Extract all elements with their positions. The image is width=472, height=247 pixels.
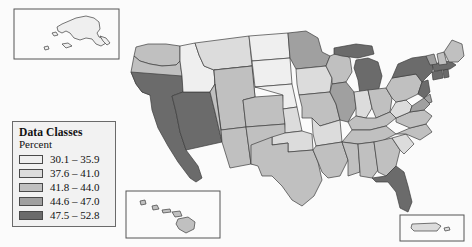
legend-subtitle: Percent <box>19 138 110 151</box>
state-HI-molokai[interactable] <box>162 209 171 213</box>
legend-swatch-5 <box>19 211 43 220</box>
legend-row-5[interactable]: 47.5 – 52.8 <box>19 209 110 222</box>
state-CO[interactable] <box>243 95 285 127</box>
legend-panel: Data Classes Percent 30.1 – 35.937.6 – 4… <box>12 121 116 227</box>
state-MN[interactable] <box>288 31 330 69</box>
legend-swatch-1 <box>19 155 43 164</box>
state-RI[interactable] <box>443 69 449 78</box>
legend-row-1[interactable]: 30.1 – 35.9 <box>19 153 110 166</box>
legend-row-4[interactable]: 44.6 – 47.0 <box>19 195 110 208</box>
state-CT[interactable] <box>432 70 443 80</box>
legend-label-1: 30.1 – 35.9 <box>50 153 100 165</box>
state-KS[interactable] <box>283 107 302 133</box>
legend-label-2: 37.6 – 41.0 <box>50 167 100 179</box>
legend-label-5: 47.5 – 52.8 <box>50 209 100 221</box>
hawaii-inset-box <box>126 191 220 238</box>
alaska-inset-box <box>14 9 119 59</box>
conus-states <box>131 31 464 212</box>
state-PR-vieques[interactable] <box>444 227 450 231</box>
state-ND[interactable] <box>249 33 290 61</box>
map-canvas: Data Classes Percent 30.1 – 35.937.6 – 4… <box>0 0 472 247</box>
legend-label-3: 41.8 – 44.0 <box>50 181 100 193</box>
legend-class-list: 30.1 – 35.937.6 – 41.041.8 – 44.044.6 – … <box>19 153 110 222</box>
state-KY[interactable] <box>348 112 396 130</box>
legend-swatch-2 <box>19 169 43 178</box>
state-FL[interactable] <box>372 166 412 212</box>
legend-swatch-3 <box>19 183 43 192</box>
legend-swatch-4 <box>19 197 43 206</box>
state-SD[interactable] <box>252 58 292 87</box>
state-PR[interactable] <box>411 223 441 231</box>
legend-row-2[interactable]: 37.6 – 41.0 <box>19 167 110 180</box>
legend-title: Data Classes <box>19 126 110 138</box>
state-HI-kauai[interactable] <box>140 200 146 205</box>
legend-label-4: 44.6 – 47.0 <box>50 195 100 207</box>
state-AK-aleutians-2[interactable] <box>44 46 49 50</box>
state-IA[interactable] <box>296 66 332 95</box>
legend-row-3[interactable]: 41.8 – 44.0 <box>19 181 110 194</box>
state-MT[interactable] <box>195 36 252 70</box>
state-ME[interactable] <box>444 40 464 62</box>
